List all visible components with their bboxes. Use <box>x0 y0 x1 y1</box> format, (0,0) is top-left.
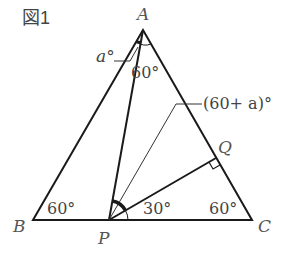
angle-label-c: 60° <box>209 199 237 218</box>
vertex-label-q: Q <box>218 137 232 157</box>
angle-label-b: 60° <box>47 199 75 218</box>
vertex-label-b: B <box>12 216 26 236</box>
triangle-abc <box>33 30 252 220</box>
bold-angle-arc-a <box>137 42 142 43</box>
bold-angle-arc-p <box>113 201 126 211</box>
angle-label-qpc: 30° <box>143 199 171 218</box>
figure-title: 図1 <box>22 8 50 28</box>
angle-label-a-inner: 60° <box>131 63 159 82</box>
angle-callout: (60+ a)° <box>203 94 272 113</box>
vertex-label-c: C <box>258 216 271 236</box>
vertex-label-a: A <box>135 4 149 24</box>
vertex-label-p: P <box>97 228 110 248</box>
angle-arc-p-30 <box>126 211 129 221</box>
angle-label-a: a° <box>96 46 115 66</box>
geometry-figure: 図1 A B C P Q 60° 60° 60° a° 30° (60+ a)° <box>0 0 301 254</box>
